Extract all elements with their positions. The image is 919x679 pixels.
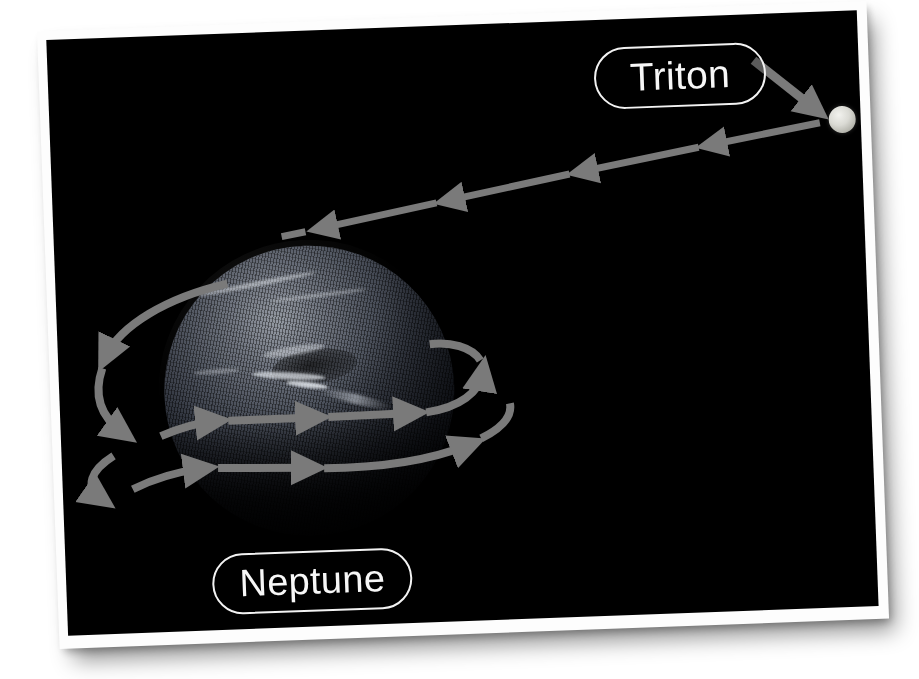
neptune-bottom-fade — [145, 410, 480, 572]
label-triton: Triton — [593, 42, 767, 110]
triton-moon — [828, 105, 856, 133]
photo-print: Triton Neptune — [37, 1, 889, 649]
triton-orbit-trail — [278, 123, 823, 237]
figure-stage: Triton Neptune — [0, 0, 919, 679]
photo-image: Triton Neptune — [46, 10, 878, 635]
neptune-planet — [159, 240, 459, 540]
label-neptune: Neptune — [211, 547, 413, 615]
